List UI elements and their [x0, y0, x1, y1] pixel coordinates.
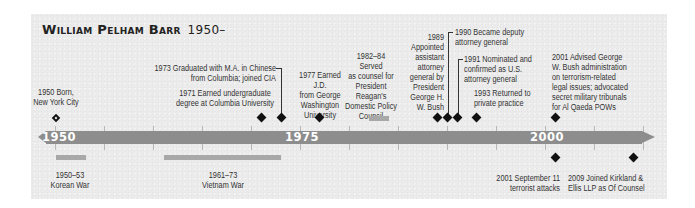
event-line: Reagan's [344, 91, 397, 101]
event-line: 1950–53 [44, 170, 96, 180]
event-1993: 1993 Returned to private practice [474, 88, 534, 108]
timeline-title: William Pelham Barr 1950– [42, 22, 226, 37]
event-line: confirmed as U.S. [464, 64, 533, 74]
event-line: attorney [406, 62, 444, 72]
event-line: legal issues; advocated [552, 82, 638, 92]
event-line: 1961–73 [197, 170, 249, 180]
event-line: from George [294, 90, 346, 100]
event-line: assistant [406, 52, 444, 62]
event-line: 1991 Nominated and [464, 54, 533, 64]
event-line: New York City [30, 97, 82, 107]
event-line: 2009 Joined Kirkland & [568, 173, 645, 183]
event-line: attorney general [455, 37, 532, 47]
event-vietnam-war: 1961–73 Vietnam War [197, 170, 249, 190]
event-1990: 1990 Became deputy attorney general [455, 27, 532, 47]
event-line: President [344, 81, 397, 91]
event-line: general by [406, 72, 444, 82]
event-line: Domestic Policy [344, 101, 397, 111]
event-line: as counsel for [344, 71, 397, 81]
event-line: Korean War [44, 180, 96, 190]
event-line: private practice [474, 98, 534, 108]
event-line: terrorist attacks [491, 183, 560, 193]
event-line: secret military tribunals [552, 92, 638, 102]
event-line: on terrorism-related [552, 72, 638, 82]
event-line: 1973 Graduated with M.A. in Chinese [142, 63, 276, 73]
leader-line [448, 32, 449, 116]
event-line: 1971 Earned undergraduate [173, 88, 276, 98]
event-2001-advised: 2001 Advised George W. Bush administrati… [552, 52, 638, 112]
event-line: degree at Columbia University [173, 98, 276, 108]
event-line: for Al Qaeda POWs [552, 102, 638, 112]
event-line: Vietnam War [197, 180, 249, 190]
event-1973: 1973 Graduated with M.A. in Chinese from… [142, 63, 276, 83]
event-line: W. Bush administration [552, 62, 638, 72]
event-line: Washington [294, 100, 346, 110]
event-1989: 1989 Appointed assistant attorney genera… [406, 32, 444, 112]
leader-line [458, 59, 459, 116]
event-line: George H. [406, 92, 444, 102]
event-korean-war: 1950–53 Korean War [44, 170, 96, 190]
axis-label-2000: 2000 [530, 130, 564, 144]
event-1950-born: 1950 Born, New York City [30, 87, 82, 107]
event-2001-sept-11: 2001 September 11 terrorist attacks [491, 173, 560, 193]
event-line: 2001 September 11 [491, 173, 560, 183]
event-2009: 2009 Joined Kirkland & Ellis LLP as Of C… [568, 173, 645, 193]
event-line: W. Bush [406, 102, 444, 112]
span-bar-korean-war [56, 155, 86, 160]
event-line: 1977 Earned J.D. [294, 70, 346, 90]
axis-label-1950: 1950 [42, 130, 76, 144]
span-bar-vietnam-war [164, 155, 281, 160]
event-1982-84: 1982–84 Served as counsel for President … [344, 51, 397, 121]
event-line: 1950 Born, [30, 87, 82, 97]
event-line: attorney general [464, 74, 533, 84]
event-line: 1993 Returned to [474, 88, 534, 98]
title-years: 1950– [188, 23, 226, 37]
event-line: 2001 Advised George [552, 52, 638, 62]
event-1971: 1971 Earned undergraduate degree at Colu… [173, 88, 276, 108]
axis-label-1975: 1975 [285, 130, 319, 144]
event-line: from Columbia; joined CIA [142, 73, 276, 83]
leader-line [281, 68, 282, 116]
event-line: Ellis LLP as Of Counsel [568, 183, 645, 193]
span-bar-1982-84 [369, 116, 389, 121]
event-line: Appointed [406, 42, 444, 52]
title-name: William Pelham Barr [42, 22, 181, 37]
timeline-axis: 1950 1975 2000 [38, 131, 655, 144]
event-line: 1982–84 Served [344, 51, 397, 71]
event-line: 1990 Became deputy [455, 27, 532, 37]
event-line: 1989 [406, 32, 444, 42]
axis-arrow-right [642, 131, 655, 143]
event-line: President [406, 82, 444, 92]
event-1991: 1991 Nominated and confirmed as U.S. att… [464, 54, 533, 84]
